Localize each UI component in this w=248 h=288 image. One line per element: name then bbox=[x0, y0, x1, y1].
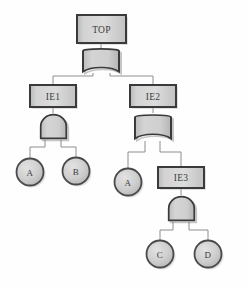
connector-gie3-to-c bbox=[160, 222, 173, 240]
or-gate-icon bbox=[135, 115, 171, 139]
gate-ie1-and[interactable] bbox=[41, 115, 69, 141]
fault-tree-diagram: TOP IE1 IE2 IE3 A B bbox=[0, 0, 248, 288]
event-box-ie2[interactable]: IE2 bbox=[130, 85, 178, 109]
event-box-ie1[interactable]: IE1 bbox=[30, 85, 78, 109]
basic-event-a2-label: A bbox=[125, 178, 132, 188]
and-gate-icon bbox=[169, 197, 195, 221]
basic-event-d1-label: D bbox=[205, 250, 212, 260]
and-gate-icon bbox=[41, 115, 67, 139]
connector-gtop-to-ie1 bbox=[53, 73, 93, 85]
basic-event-b1[interactable]: B bbox=[63, 158, 92, 187]
basic-event-c1-label: C bbox=[157, 250, 163, 260]
event-box-top-label: TOP bbox=[92, 25, 111, 35]
tree-canvas: TOP IE1 IE2 IE3 A B bbox=[0, 0, 248, 288]
event-box-ie3[interactable]: IE3 bbox=[158, 167, 206, 190]
basic-event-c1[interactable]: C bbox=[147, 241, 176, 270]
connector-gtop-to-ie2 bbox=[110, 73, 153, 85]
connector-gie2-to-a bbox=[128, 141, 145, 168]
basic-event-a1[interactable]: A bbox=[17, 159, 46, 188]
event-box-ie1-label: IE1 bbox=[46, 92, 61, 102]
event-box-ie2-label: IE2 bbox=[146, 92, 161, 102]
gate-top-or[interactable] bbox=[83, 49, 121, 74]
connector-gie2-to-ie3 bbox=[160, 141, 181, 167]
connector-gie3-to-d bbox=[189, 222, 208, 240]
connector-gie1-to-b bbox=[61, 140, 76, 158]
basic-event-b1-label: B bbox=[73, 167, 79, 177]
or-gate-icon bbox=[83, 49, 119, 72]
basic-event-a1-label: A bbox=[27, 168, 34, 178]
basic-event-d1[interactable]: D bbox=[195, 241, 224, 270]
gate-ie3-and[interactable] bbox=[169, 197, 197, 223]
event-box-ie3-label: IE3 bbox=[174, 173, 189, 183]
event-box-top[interactable]: TOP bbox=[77, 15, 128, 45]
basic-event-a2[interactable]: A bbox=[115, 169, 144, 198]
gate-ie2-or[interactable] bbox=[135, 115, 173, 141]
connector-gie1-to-a bbox=[30, 140, 45, 158]
